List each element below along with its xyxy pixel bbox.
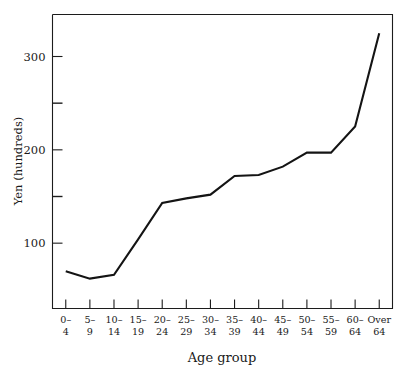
y-tick-label: 300 <box>24 50 46 64</box>
chart-figure: 100200300 0–45–910–1415–1920–2425–2930–3… <box>0 0 407 375</box>
y-tick-label: 100 <box>24 236 46 250</box>
x-axis-title: Age group <box>187 350 257 365</box>
x-tick-label: 30–34 <box>202 314 219 337</box>
y-tick-label: 200 <box>24 143 46 157</box>
x-tick-label: 45–49 <box>274 314 291 337</box>
line-chart: 100200300 0–45–910–1415–1920–2425–2930–3… <box>0 0 407 375</box>
y-axis-title: Yen (hundreds) <box>11 117 25 207</box>
x-tick-label: 10–14 <box>105 314 122 337</box>
x-tick-label: 25–29 <box>178 314 195 337</box>
